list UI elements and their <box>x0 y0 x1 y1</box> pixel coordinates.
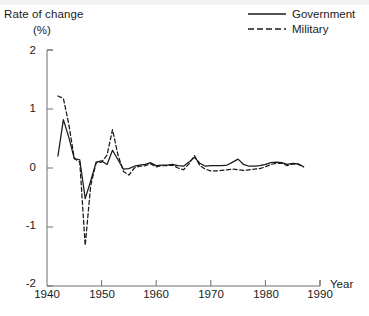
series-line-government <box>58 120 304 199</box>
series-line-military <box>58 96 304 245</box>
y-axis-ticks <box>47 50 53 286</box>
axis-lines <box>47 50 320 286</box>
x-axis-ticks <box>102 280 320 286</box>
plot-area <box>0 0 369 316</box>
chart-figure: Rate of change (%) Year Government Milit… <box>0 0 369 316</box>
